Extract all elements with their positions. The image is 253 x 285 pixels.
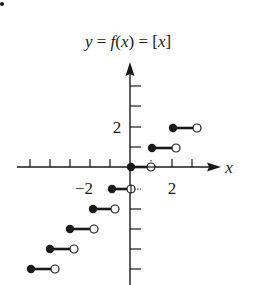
step-segments [31,128,194,269]
x-tick-label-2: 2 [168,179,177,198]
closed-dot-icon [127,163,135,171]
open-dot-icon [70,245,78,253]
open-dot-icon [51,265,59,273]
corner-dot [0,2,4,6]
closed-dot-icon [46,245,54,253]
closed-dot-icon [66,225,74,233]
x-axis-arrow-icon [207,163,221,172]
open-dot-icon [172,144,180,152]
step-function-graph: y = f(x) = [x] 2 −2 2 x [0,0,253,285]
closed-dot-icon [27,265,35,273]
open-dot-icon [193,124,201,132]
open-dot-icon [90,225,98,233]
closed-dot-icon [108,185,116,193]
closed-endpoints [27,124,177,273]
x-axis-label: x [224,158,233,177]
axes [17,72,212,285]
x-tick-label-neg2: −2 [75,179,93,198]
closed-dot-icon [89,205,97,213]
open-endpoints [51,124,201,273]
closed-dot-icon [169,124,177,132]
open-dot-icon [111,205,119,213]
y-ticks [130,86,141,269]
x-ticks [30,159,192,167]
y-tick-label-2: 2 [113,118,122,137]
closed-dot-icon [148,144,156,152]
graph-title: y = f(x) = [x] [83,32,171,51]
y-axis-arrow-icon [126,62,135,76]
